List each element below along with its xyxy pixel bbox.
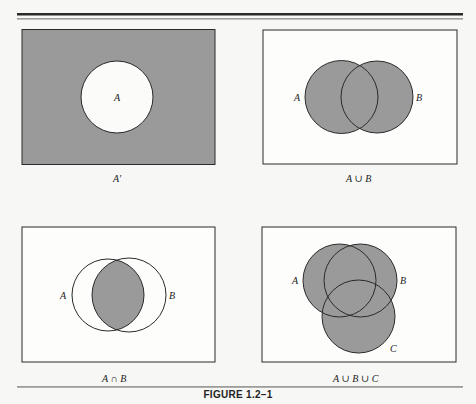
set-a-label: A (291, 275, 299, 286)
set-a-label: A (293, 92, 301, 103)
set-c-label: C (390, 343, 397, 354)
top-thick-rule (17, 13, 463, 16)
panel-caption: A ∪ B ∪ C (332, 373, 379, 384)
panel-caption: A ∪ B (345, 173, 371, 184)
panel-caption: A′ (112, 173, 122, 184)
set-a-label: A (59, 290, 67, 301)
set-a-label: A (113, 92, 121, 103)
figure-canvas: A A′ A B A ∪ B A B A ∩ B A B C A ∪ B ∪ C (0, 0, 476, 404)
set-b-label: B (416, 92, 422, 103)
bottom-rule (17, 387, 463, 388)
panel-union-three: A B C A ∪ B ∪ C (262, 227, 456, 384)
set-b-label: B (400, 275, 406, 286)
panel-caption: A ∩ B (101, 373, 126, 384)
top-thin-rule (17, 19, 463, 20)
panel-intersection: A B A ∩ B (22, 227, 215, 384)
set-b-label: B (169, 290, 175, 301)
panel-union: A B A ∪ B (263, 30, 457, 184)
panel-complement: A A′ (22, 30, 215, 185)
figure-title: FIGURE 1.2–1 (0, 389, 476, 400)
